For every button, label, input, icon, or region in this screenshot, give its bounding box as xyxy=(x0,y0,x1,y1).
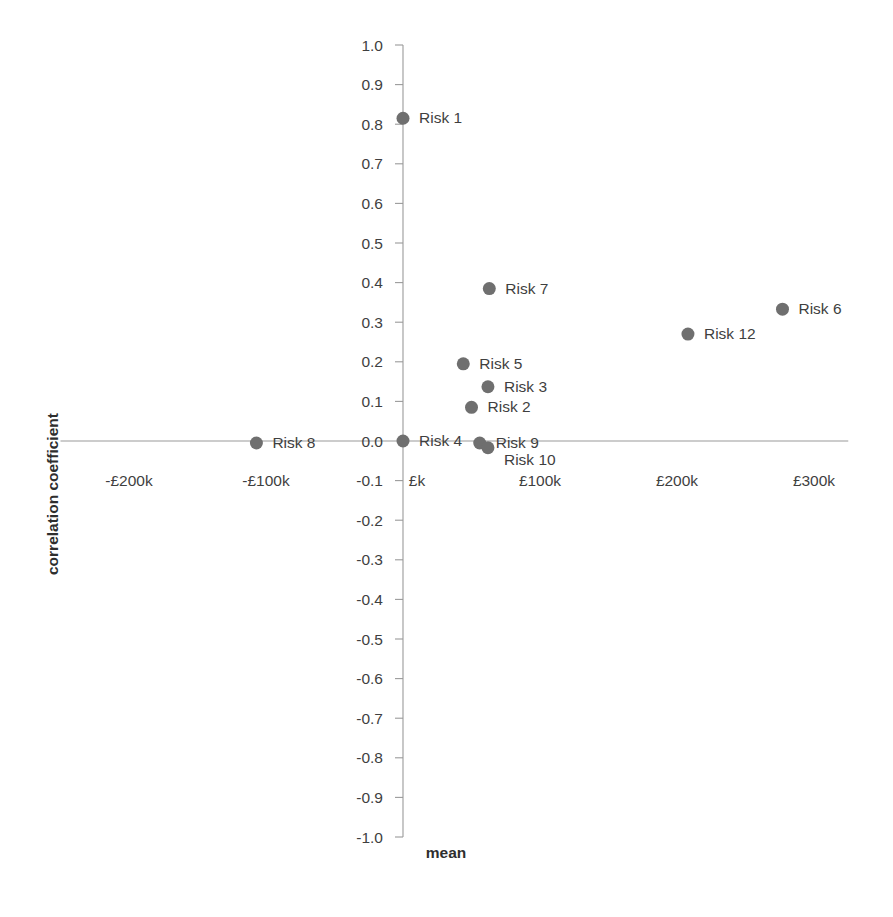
data-point[interactable] xyxy=(681,328,694,341)
data-point[interactable] xyxy=(481,441,494,454)
y-tick-label: -0.4 xyxy=(356,591,383,608)
y-tick-label: 0.2 xyxy=(361,353,383,370)
x-tick-label: -£200k xyxy=(105,472,153,489)
y-tick-label: 0.3 xyxy=(361,314,383,331)
y-tick-label: 0.1 xyxy=(361,393,383,410)
data-point-label: Risk 6 xyxy=(798,300,841,317)
y-tick-label: 0.5 xyxy=(361,235,383,252)
y-tick-label: 0.0 xyxy=(361,433,383,450)
data-point-label: Risk 1 xyxy=(419,109,462,126)
data-point[interactable] xyxy=(483,282,496,295)
data-point-label: Risk 7 xyxy=(505,280,548,297)
y-tick-label: 0.9 xyxy=(361,76,383,93)
x-tick-label: £300k xyxy=(793,472,835,489)
data-point[interactable] xyxy=(776,303,789,316)
data-point-label: Risk 9 xyxy=(496,434,539,451)
y-tick-label: 0.7 xyxy=(361,155,383,172)
y-tick-label: -0.9 xyxy=(356,789,383,806)
chart-canvas: 1.00.90.80.70.60.50.40.30.20.10.0-0.1-0.… xyxy=(0,0,893,917)
y-tick-label: -1.0 xyxy=(356,829,383,846)
x-tick-label: -£100k xyxy=(242,472,290,489)
y-tick-label: -0.5 xyxy=(356,631,383,648)
data-point[interactable] xyxy=(457,357,470,370)
data-point-labels-group: Risk 1Risk 7Risk 6Risk 12Risk 5Risk 3Ris… xyxy=(272,109,841,467)
y-tick-label: -0.3 xyxy=(356,551,383,568)
x-tick-label: £100k xyxy=(519,472,561,489)
y-tick-label: -0.1 xyxy=(356,472,383,489)
data-point[interactable] xyxy=(481,380,494,393)
data-point-label: Risk 12 xyxy=(704,325,756,342)
data-point-label: Risk 8 xyxy=(272,434,315,451)
data-point-label: Risk 4 xyxy=(419,432,462,449)
x-tick-label: £200k xyxy=(656,472,698,489)
y-tick-label: 1.0 xyxy=(361,37,383,54)
y-tick-label: -0.6 xyxy=(356,670,383,687)
y-tick-label: 0.4 xyxy=(361,274,383,291)
x-axis-title: mean xyxy=(426,844,467,861)
x-tick-label: £k xyxy=(409,472,426,489)
data-point[interactable] xyxy=(397,112,410,125)
x-axis-ticks: -£200k-£100k£k£100k£200k£300k xyxy=(105,472,835,489)
data-point[interactable] xyxy=(250,436,263,449)
y-tick-label: 0.6 xyxy=(361,195,383,212)
data-point-label: Risk 3 xyxy=(504,378,547,395)
y-axis-title: correlation coefficient xyxy=(44,413,61,575)
data-point-label: Risk 5 xyxy=(479,355,522,372)
scatter-chart: 1.00.90.80.70.60.50.40.30.20.10.0-0.1-0.… xyxy=(0,0,893,917)
data-point[interactable] xyxy=(397,435,410,448)
y-tick-label: -0.2 xyxy=(356,512,383,529)
data-point-label: Risk 2 xyxy=(488,398,531,415)
data-point[interactable] xyxy=(465,401,478,414)
y-tick-label: -0.7 xyxy=(356,710,383,727)
y-tick-label: 0.8 xyxy=(361,116,383,133)
data-point-label: Risk 10 xyxy=(504,451,556,468)
y-tick-label: -0.8 xyxy=(356,749,383,766)
